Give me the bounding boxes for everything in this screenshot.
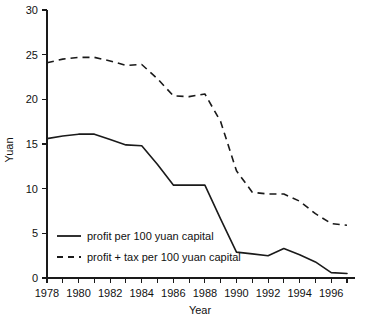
line-chart: 051015202530 197819801982198419861988199… (0, 0, 368, 321)
x-tick-label: 1990 (224, 287, 248, 299)
x-tick-label: 1982 (98, 287, 122, 299)
series-line-profit-plus-tax (47, 57, 347, 225)
y-tick-label: 30 (26, 4, 38, 16)
x-tick-label: 1984 (129, 287, 153, 299)
x-axis-ticks (47, 278, 347, 283)
x-tick-label: 1986 (161, 287, 185, 299)
y-axis-tick-labels: 051015202530 (26, 4, 38, 284)
x-tick-label: 1978 (35, 287, 59, 299)
chart-canvas: 051015202530 197819801982198419861988199… (0, 0, 368, 321)
x-tick-label: 1988 (193, 287, 217, 299)
legend-label-profit: profit per 100 yuan capital (87, 230, 214, 242)
x-tick-label: 1996 (319, 287, 343, 299)
legend-label-profit-plus-tax: profit + tax per 100 yuan capital (87, 251, 241, 263)
y-tick-label: 20 (26, 93, 38, 105)
x-tick-label: 1992 (256, 287, 280, 299)
x-tick-label: 1994 (287, 287, 311, 299)
y-axis-title: Yuan (3, 137, 15, 162)
y-tick-label: 15 (26, 138, 38, 150)
x-axis-title: Year (189, 304, 212, 316)
y-axis-ticks (42, 10, 47, 278)
legend: profit per 100 yuan capital profit + tax… (57, 230, 241, 263)
x-axis-tick-labels: 1978198019821984198619881990199219941996 (35, 287, 344, 299)
y-tick-label: 25 (26, 49, 38, 61)
y-tick-label: 0 (32, 272, 38, 284)
y-tick-label: 10 (26, 183, 38, 195)
x-tick-label: 1980 (66, 287, 90, 299)
y-tick-label: 5 (32, 227, 38, 239)
